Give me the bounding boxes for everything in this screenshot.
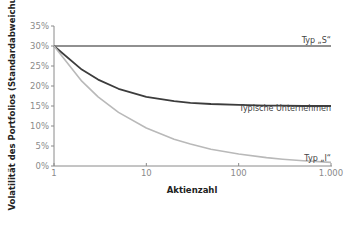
y-tick-label: 0%	[36, 161, 50, 171]
x-axis-title: Aktienzahl	[167, 185, 218, 195]
x-tick-label: 1.000	[319, 168, 343, 178]
y-tick-label: 10%	[30, 121, 49, 131]
x-tick-label: 100	[231, 168, 247, 178]
series-label-typ-i: Typ „I“	[303, 154, 331, 163]
y-tick-label: 5%	[36, 141, 50, 151]
x-tick-label: 1	[51, 168, 56, 178]
y-tick-label: 20%	[30, 81, 49, 91]
y-tick-label: 15%	[30, 101, 49, 111]
y-tick-label: 30%	[30, 41, 49, 51]
series-label-typische-unternehmen: Typische Unternehmen	[238, 104, 331, 113]
x-axis-ticks: 1101001.000	[51, 163, 343, 178]
series-line	[54, 46, 331, 106]
volatility-chart: 0%5%10%15%20%25%30%35% 1101001.000 Typ „…	[0, 0, 350, 229]
y-tick-label: 25%	[30, 61, 49, 71]
series-label-typ-s: Typ „S“	[301, 36, 331, 45]
y-axis-title: Volatilität des Portfolios (Standardabwe…	[7, 0, 17, 211]
y-tick-label: 35%	[30, 21, 49, 31]
x-tick-label: 10	[141, 168, 152, 178]
y-axis-ticks: 0%5%10%15%20%25%30%35%	[30, 21, 54, 171]
